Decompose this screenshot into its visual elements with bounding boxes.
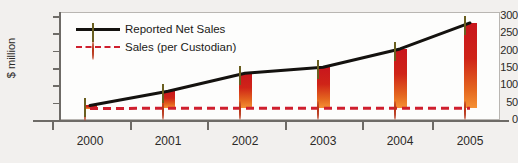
data-point-circle-icon	[162, 102, 164, 120]
chart-legend: Reported Net Sales Sales (per Custodian)	[76, 20, 236, 56]
y-tick-label: 300	[484, 9, 518, 21]
data-point-circle-icon	[317, 102, 319, 120]
connector-bar	[464, 23, 477, 108]
data-point-circle-icon	[464, 102, 466, 120]
y-tick-mark	[53, 120, 60, 122]
data-point-diamond-icon	[317, 61, 319, 79]
y-tick-mark	[53, 51, 60, 53]
x-tick-label: 2004	[373, 134, 427, 148]
x-tick-label: 2001	[141, 134, 195, 148]
y-tick-mark	[53, 85, 60, 87]
x-tick-mark	[362, 122, 364, 130]
x-tick-label: 2002	[218, 134, 272, 148]
legend-item-sales-per-custodian: Sales (per Custodian)	[76, 38, 236, 56]
legend-item-reported-net-sales: Reported Net Sales	[76, 20, 236, 38]
x-tick-mark	[130, 122, 132, 130]
data-point-diamond-icon	[394, 43, 396, 61]
y-axis-line	[59, 12, 61, 121]
y-axis-title: $ million	[5, 23, 17, 93]
y-tick-label: 0	[484, 113, 518, 125]
data-point-circle-icon	[239, 102, 241, 120]
x-tick-mark	[52, 122, 54, 130]
legend-label-sales-per-custodian: Sales (per Custodian)	[125, 41, 236, 53]
y-tick-label: 50	[484, 96, 518, 108]
x-tick-label: 2000	[63, 134, 117, 148]
data-point-diamond-icon	[84, 99, 86, 117]
x-tick-mark	[432, 122, 434, 130]
chart-container: $ million 050100150200250300 20002001200…	[0, 0, 518, 163]
data-point-diamond-icon	[464, 17, 466, 35]
x-tick-mark	[207, 122, 209, 130]
data-point-circle-icon	[394, 102, 396, 120]
x-tick-label: 2003	[296, 134, 350, 148]
circle-marker-icon	[76, 41, 120, 53]
diamond-marker-icon	[76, 23, 120, 35]
y-tick-label: 150	[484, 61, 518, 73]
x-tick-label: 2005	[443, 134, 497, 148]
legend-label-reported-net-sales: Reported Net Sales	[125, 23, 225, 35]
y-tick-label: 200	[484, 44, 518, 56]
y-tick-mark	[53, 33, 60, 35]
y-tick-mark	[53, 16, 60, 18]
data-point-diamond-icon	[239, 67, 241, 85]
x-axis-line	[33, 120, 509, 122]
x-tick-mark	[285, 122, 287, 130]
y-tick-mark	[53, 103, 60, 105]
data-point-diamond-icon	[162, 85, 164, 103]
y-tick-label: 250	[484, 26, 518, 38]
y-tick-label: 100	[484, 78, 518, 90]
y-tick-mark	[53, 68, 60, 70]
